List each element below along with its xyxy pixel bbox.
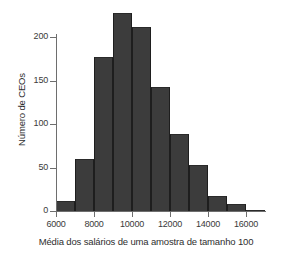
x-tick-label: 10000 <box>112 219 152 229</box>
x-tick-label: 8000 <box>74 219 114 229</box>
x-tick-label: 12000 <box>150 219 190 229</box>
histogram-bar <box>208 196 227 211</box>
y-tick-mark <box>50 37 56 38</box>
x-axis-line <box>56 211 266 212</box>
histogram-bar <box>132 27 151 211</box>
x-tick-mark <box>170 212 171 217</box>
x-tick-label: 6000 <box>36 219 76 229</box>
y-tick-mark <box>50 168 56 169</box>
y-tick-label: 0 <box>20 205 48 215</box>
y-tick-mark <box>50 81 56 82</box>
y-axis-line <box>56 34 57 212</box>
x-tick-label: 16000 <box>226 219 266 229</box>
y-axis-title: Número de CEOs <box>16 40 27 180</box>
plot-area <box>56 8 265 211</box>
x-tick-mark <box>208 212 209 217</box>
histogram-bar <box>189 165 208 211</box>
x-tick-mark <box>132 212 133 217</box>
x-tick-mark <box>56 212 57 217</box>
histogram-bar <box>75 159 94 211</box>
x-tick-mark <box>246 212 247 217</box>
histogram-bar <box>56 201 75 211</box>
histogram-bar <box>170 134 189 211</box>
y-tick-mark <box>50 124 56 125</box>
x-axis-title: Média dos salários de uma amostra de tam… <box>0 236 292 247</box>
histogram-bar <box>94 57 113 211</box>
histogram-figure: 050100150200 600080001000012000140001600… <box>0 0 292 259</box>
x-tick-mark <box>94 212 95 217</box>
x-tick-label: 14000 <box>188 219 228 229</box>
histogram-bar <box>227 204 246 211</box>
histogram-bar <box>113 13 132 211</box>
histogram-bar <box>151 87 170 211</box>
